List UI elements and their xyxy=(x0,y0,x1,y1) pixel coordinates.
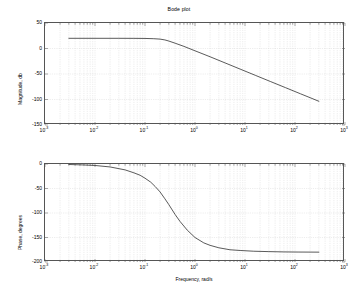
x-tick-label: 100 xyxy=(182,127,206,133)
y-tick-label: 0 xyxy=(16,45,42,51)
x-tick-label: 10-1 xyxy=(132,264,156,270)
y-tick-label: 50 xyxy=(16,19,42,25)
x-tick-exponent: 3 xyxy=(346,126,348,130)
x-tick-exponent: 2 xyxy=(296,126,298,130)
x-tick-exponent: -1 xyxy=(145,126,148,130)
x-tick-exponent: -2 xyxy=(95,126,98,130)
x-tick-label: 10-2 xyxy=(82,264,106,270)
x-tick-exponent: 0 xyxy=(196,126,198,130)
y-tick-label: -100 xyxy=(16,96,42,102)
phase-x-axis-label: Frequency, rad/s xyxy=(44,276,344,282)
x-tick-label: 102 xyxy=(282,264,306,270)
plot-title: Bode plot xyxy=(0,6,358,12)
bode-plot-figure: Bode plot Magnitude, db 500-50-100-150 1… xyxy=(0,0,358,290)
y-tick-label: -100 xyxy=(16,209,42,215)
x-tick-label: 10-3 xyxy=(32,127,56,133)
x-tick-exponent: -3 xyxy=(45,263,48,267)
phase-plot-area xyxy=(44,163,344,261)
x-tick-label: 102 xyxy=(282,127,306,133)
x-tick-exponent: 1 xyxy=(246,263,248,267)
y-tick-label: -50 xyxy=(16,70,42,76)
phase-svg xyxy=(45,164,345,262)
x-tick-exponent: -2 xyxy=(95,263,98,267)
y-tick-label: 0 xyxy=(16,160,42,166)
x-tick-label: 10-2 xyxy=(82,127,106,133)
x-tick-label: 101 xyxy=(232,264,256,270)
x-tick-exponent: 0 xyxy=(196,263,198,267)
x-tick-label: 103 xyxy=(332,264,356,270)
y-tick-label: -150 xyxy=(16,234,42,240)
x-tick-label: 10-1 xyxy=(132,127,156,133)
x-tick-exponent: 3 xyxy=(346,263,348,267)
phase-y-axis-label: Phase, degrees xyxy=(17,215,23,250)
x-tick-exponent: 2 xyxy=(296,263,298,267)
magnitude-plot-area xyxy=(44,22,344,124)
magnitude-svg xyxy=(45,23,345,125)
x-tick-label: 101 xyxy=(232,127,256,133)
x-tick-exponent: -1 xyxy=(145,263,148,267)
x-tick-label: 100 xyxy=(182,264,206,270)
x-tick-label: 10-3 xyxy=(32,264,56,270)
x-tick-exponent: 1 xyxy=(246,126,248,130)
x-tick-label: 103 xyxy=(332,127,356,133)
y-tick-label: -50 xyxy=(16,185,42,191)
x-tick-exponent: -3 xyxy=(45,126,48,130)
